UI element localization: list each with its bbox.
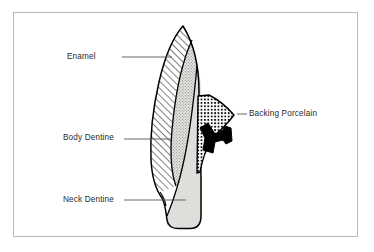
label-neck-dentine: Neck Dentine — [63, 196, 114, 204]
tooth-cross-section-diagram — [0, 0, 374, 252]
figure-page: Enamel Body Dentine Neck Dentine Backing… — [0, 0, 374, 252]
label-backing-porcelain: Backing Porcelain — [249, 110, 317, 118]
label-enamel: Enamel — [67, 53, 96, 61]
label-body-dentine: Body Dentine — [63, 134, 114, 142]
